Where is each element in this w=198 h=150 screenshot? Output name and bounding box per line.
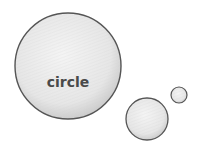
medium-circle	[126, 98, 168, 140]
large-circle	[15, 13, 121, 119]
small-circle	[171, 87, 187, 103]
sketch-canvas	[0, 0, 198, 150]
circle-label: circle	[47, 74, 90, 90]
